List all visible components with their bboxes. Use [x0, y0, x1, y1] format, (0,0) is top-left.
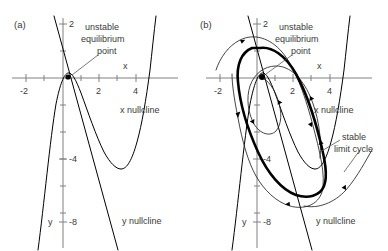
y-tick-label--8: -8 — [69, 217, 77, 227]
trajectory-direction-arrows — [236, 38, 346, 206]
stable-limit-cycle-line-1: stable — [342, 132, 366, 142]
panel-a-label: (a) — [14, 19, 26, 30]
panel-b-plot: (b) -2 2 4 2 -4 -8 x y unstable equilibr… — [194, 0, 388, 251]
y-tick-label--4: -4 — [69, 154, 77, 164]
arrowhead-5 — [278, 100, 283, 105]
arrowhead-8 — [342, 185, 346, 190]
axes-group-a — [12, 18, 178, 248]
panel-a-plot: (a) -2 2 4 2 -4 -8 x y unstable equilibr… — [0, 0, 194, 251]
panel-b: (b) -2 2 4 2 -4 -8 x y unstable equilibr… — [194, 0, 388, 251]
panel-a: (a) -2 2 4 2 -4 -8 x y unstable equilibr… — [0, 0, 194, 251]
y-nullcline-label: y nullcline — [122, 216, 162, 226]
unstable-equilibrium-line-1: unstable — [85, 22, 119, 32]
figure-phase-plane-nullclines: (a) -2 2 4 2 -4 -8 x y unstable equilibr… — [0, 0, 388, 251]
x-tick-label--2: -2 — [214, 86, 222, 96]
unstable-equilibrium-line-2: equilibrium — [275, 34, 319, 44]
unstable-equilibrium-line-2: equilibrium — [81, 34, 125, 44]
stable-limit-cycle-line-2: limit cycle — [334, 144, 373, 154]
unstable-equilibrium-point-marker — [65, 74, 70, 79]
outer-trajectory-tail — [304, 150, 372, 207]
y-axis-label: y — [48, 217, 53, 227]
unstable-equilibrium-point-marker — [259, 74, 265, 80]
equilibrium-leader-line — [266, 55, 292, 74]
x-nullcline-label: x nullcline — [314, 105, 354, 115]
x-nullcline-label: x nullcline — [120, 105, 160, 115]
equilibrium-leader-line — [72, 55, 98, 75]
outer-trajectory — [216, 37, 323, 207]
y-tick-label--8: -8 — [263, 217, 271, 227]
x-tick-label-2: 2 — [290, 86, 295, 96]
unstable-equilibrium-line-3: point — [97, 46, 117, 56]
panel-b-label: (b) — [200, 19, 212, 30]
arrowhead-4 — [236, 112, 241, 118]
x-tick-label-4: 4 — [327, 86, 332, 96]
x-tick-label--2: -2 — [20, 86, 28, 96]
y-tick-label-2: 2 — [69, 19, 74, 29]
x-tick-label-4: 4 — [133, 86, 138, 96]
y-axis-label: y — [242, 217, 247, 227]
x-axis-label: x — [123, 61, 128, 71]
y-nullcline-label: y nullcline — [316, 216, 356, 226]
y-tick-label--4: -4 — [263, 154, 271, 164]
y-tick-label-2: 2 — [263, 19, 268, 29]
unstable-equilibrium-line-1: unstable — [279, 22, 313, 32]
stable-limit-cycle — [238, 48, 326, 197]
x-tick-label-2: 2 — [96, 86, 101, 96]
unstable-equilibrium-line-3: point — [291, 46, 311, 56]
x-axis-label: x — [317, 61, 322, 71]
